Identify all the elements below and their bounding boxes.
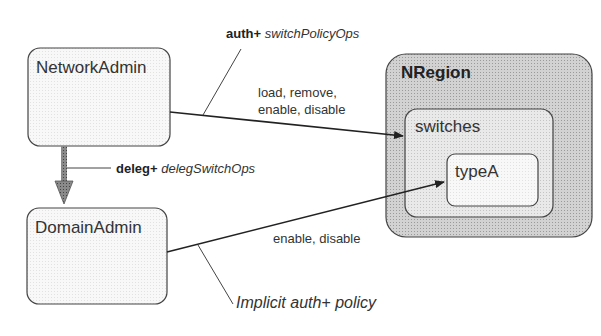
- diagram-canvas: [0, 0, 601, 336]
- domain-admin-label: DomainAdmin: [35, 218, 142, 238]
- deleg-policy-name: delegSwitchOps: [161, 161, 255, 176]
- auth-policy-label: auth+ switchPolicyOps: [226, 25, 359, 42]
- network-ops-line2: enable, disable: [258, 101, 345, 118]
- delegation-arrow: [55, 146, 73, 204]
- auth-policy-name: switchPolicyOps: [265, 26, 360, 41]
- domain-ops-label: enable, disable: [273, 230, 360, 247]
- implicit-policy-label: Implicit auth+ policy: [236, 294, 376, 312]
- network-ops-label: load, remove, enable, disable: [258, 84, 345, 118]
- auth-keyword: auth+: [226, 26, 261, 41]
- network-admin-label: NetworkAdmin: [36, 58, 147, 78]
- switches-label: switches: [415, 117, 480, 137]
- deleg-keyword: deleg+: [116, 161, 158, 176]
- nregion-label: NRegion: [401, 63, 471, 83]
- deleg-policy-label: deleg+ delegSwitchOps: [116, 160, 255, 177]
- auth-label-connector: [203, 49, 241, 115]
- implicit-label-connector: [198, 245, 233, 304]
- network-ops-line1: load, remove,: [258, 84, 345, 101]
- typea-label: typeA: [455, 162, 498, 182]
